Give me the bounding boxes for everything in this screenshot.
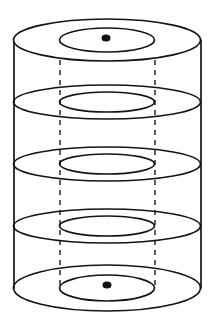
top-disc-center-dot [102, 35, 111, 42]
cylinder-diagram [0, 0, 215, 324]
top-disc [14, 19, 201, 61]
bottom-disc-center-dot [103, 282, 112, 289]
figure-container: Cylinder with five circular cross-sectio… [0, 0, 215, 324]
